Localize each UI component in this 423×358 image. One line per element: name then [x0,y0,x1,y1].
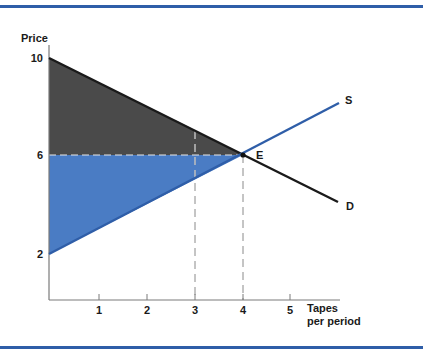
supply-demand-chart: Price 10 6 2 1 2 3 4 5 Tapes per period … [0,0,423,358]
x-axis-label-line1: Tapes [307,302,338,314]
y-tick-label-2: 2 [37,248,43,260]
x-tick-label-2: 2 [144,304,150,316]
y-axis-label: Price [21,32,48,44]
supply-label: S [345,94,352,106]
y-tick-label-6: 6 [37,149,43,161]
x-axis-label-line2: per period [307,315,361,327]
x-tick-label-1: 1 [96,304,102,316]
equilibrium-label: E [256,149,263,161]
x-tick-label-4: 4 [240,304,247,316]
y-tick-label-10: 10 [31,52,43,64]
demand-label: D [346,200,354,212]
x-tick-label-3: 3 [192,304,198,316]
x-tick-label-5: 5 [287,304,293,316]
equilibrium-point [240,152,245,157]
